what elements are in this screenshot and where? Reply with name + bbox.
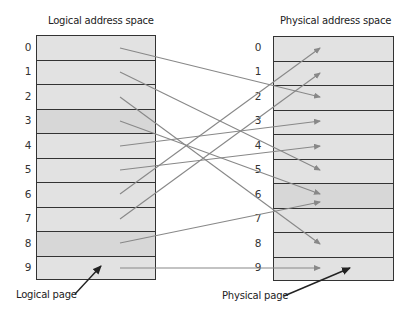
page-mapping-arrows bbox=[0, 0, 410, 318]
logical-page-caption: Logical page bbox=[16, 289, 77, 300]
mapping-arrow-7-to-1 bbox=[120, 73, 320, 219]
mapping-arrow-4-to-3 bbox=[120, 121, 320, 146]
physical-page-caption: Physical page bbox=[222, 290, 288, 301]
mapping-arrow-0-to-2 bbox=[120, 48, 320, 97]
logical-page-pointer-arrow bbox=[75, 266, 101, 294]
mapping-arrow-6-to-0 bbox=[120, 48, 320, 194]
mapping-arrow-5-to-4 bbox=[120, 146, 320, 170]
physical-page-pointer-arrow bbox=[284, 268, 350, 296]
